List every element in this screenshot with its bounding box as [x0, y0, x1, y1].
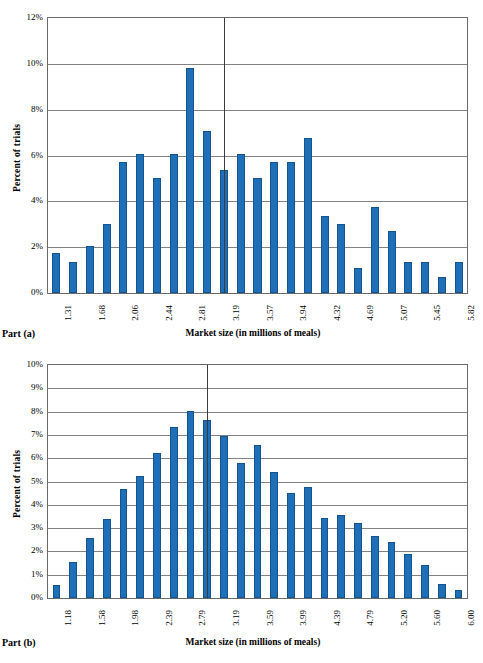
y-tick-label: 10% [27, 59, 44, 68]
bar [136, 154, 144, 293]
bar [203, 131, 211, 293]
x-tick-label: 5.82 [466, 305, 475, 321]
bar [53, 585, 61, 598]
x-tick-label: 4.69 [366, 305, 375, 321]
x-tick-label: 3.19 [232, 610, 241, 626]
y-tick-label: 3% [31, 523, 43, 532]
bar [388, 542, 396, 598]
y-tick-label: 2% [31, 242, 43, 251]
y-tick-label: 8% [31, 407, 43, 416]
y-axis-ticks-a: 0%2%4%6%8%10%12% [13, 17, 43, 294]
bar [86, 538, 94, 598]
x-tick-label: 5.60 [433, 610, 442, 626]
bar [455, 590, 463, 598]
x-tick-label: 3.94 [299, 305, 308, 321]
bar [371, 207, 379, 293]
x-tick-label: 2.06 [131, 305, 140, 321]
bar [237, 154, 245, 293]
x-tick-label: 1.18 [64, 610, 73, 626]
y-tick-label: 7% [31, 430, 43, 439]
reference-line-a [224, 18, 225, 293]
bar [304, 487, 312, 598]
x-tick-label: 2.81 [198, 305, 207, 321]
bar [287, 493, 295, 598]
bar [103, 519, 111, 598]
bar [119, 162, 127, 293]
y-tick-label: 1% [31, 570, 43, 579]
bar [321, 518, 329, 598]
y-tick-label: 9% [31, 383, 43, 392]
bar [304, 138, 312, 293]
x-tick-label: 2.39 [165, 610, 174, 626]
y-tick-label: 6% [31, 453, 43, 462]
x-tick-label: 1.58 [98, 610, 107, 626]
figure-page: Percent of trials 0%2%4%6%8%10%12% 1.311… [0, 0, 483, 663]
x-tick-label: 1.68 [98, 305, 107, 321]
bar-series-a [48, 18, 467, 293]
plot-area-a [47, 17, 468, 294]
bar [153, 453, 161, 598]
x-tick-label: 6.00 [466, 610, 475, 626]
bar [388, 231, 396, 293]
y-tick-label: 8% [31, 105, 43, 114]
x-tick-label: 4.39 [332, 610, 341, 626]
bar [337, 515, 345, 598]
x-tick-label: 3.19 [232, 305, 241, 321]
x-tick-label: 2.79 [198, 610, 207, 626]
bar [438, 584, 446, 598]
bar [237, 463, 245, 598]
chart-part-a: Percent of trials 0%2%4%6%8%10%12% 1.311… [0, 0, 483, 348]
x-tick-label: 1.31 [64, 305, 73, 321]
bar [371, 536, 379, 598]
reference-line-b [207, 365, 208, 598]
bar [220, 436, 228, 598]
x-tick-label: 5.07 [399, 305, 408, 321]
bar [254, 445, 262, 598]
x-tick-label: 2.44 [165, 305, 174, 321]
bar [52, 253, 60, 293]
x-tick-label: 3.57 [265, 305, 274, 321]
bar [270, 162, 278, 293]
bar [270, 472, 278, 598]
bar [69, 262, 77, 293]
bar [404, 554, 412, 598]
bar [253, 178, 261, 293]
bar [421, 565, 429, 598]
bar [187, 411, 195, 598]
x-axis-ticks-b: 1.181.581.982.392.793.193.593.994.394.79… [47, 602, 468, 642]
x-axis-title-a: Market size (in millions of meals) [186, 328, 321, 338]
x-tick-label: 3.59 [265, 610, 274, 626]
part-label-b: Part (b) [2, 637, 36, 648]
bar [421, 262, 429, 293]
bar [69, 562, 77, 598]
x-tick-label: 4.79 [366, 610, 375, 626]
x-axis-title-b: Market size (in millions of meals) [186, 637, 321, 647]
y-tick-label: 0% [31, 593, 43, 602]
x-tick-label: 3.99 [299, 610, 308, 626]
y-tick-label: 12% [27, 13, 44, 22]
bar [186, 68, 194, 293]
y-tick-label: 6% [31, 151, 43, 160]
y-tick-label: 2% [31, 546, 43, 555]
x-tick-label: 5.45 [433, 305, 442, 321]
bar [337, 224, 345, 293]
bar [170, 154, 178, 293]
bar [438, 277, 446, 293]
bar [170, 427, 178, 598]
bar [103, 224, 111, 293]
bar [321, 216, 329, 293]
bar [86, 246, 94, 293]
y-tick-label: 4% [31, 500, 43, 509]
y-tick-label: 0% [31, 288, 43, 297]
x-tick-label: 1.98 [131, 610, 140, 626]
bar-series-b [48, 365, 467, 598]
y-axis-ticks-b: 0%1%2%3%4%5%6%7%8%9%10% [13, 364, 43, 599]
x-tick-label: 5.20 [399, 610, 408, 626]
bar [404, 262, 412, 293]
bar [153, 178, 161, 293]
bar [354, 523, 362, 598]
y-tick-label: 5% [31, 477, 43, 486]
chart-part-b: Percent of trials 0%1%2%3%4%5%6%7%8%9%10… [0, 352, 483, 663]
bar [136, 476, 144, 598]
bar [354, 268, 362, 293]
